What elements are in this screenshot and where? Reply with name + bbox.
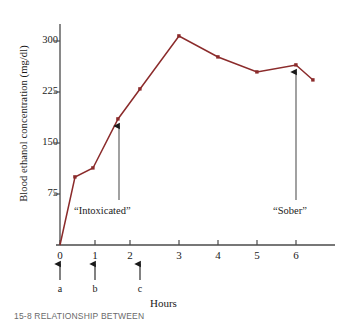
data-point-markers [73, 34, 314, 178]
data-point [116, 117, 119, 120]
data-point [294, 63, 297, 66]
data-point [73, 175, 76, 178]
axis-lines [56, 24, 335, 245]
data-point [138, 87, 141, 90]
x-axis-ticks [60, 240, 296, 245]
data-line [60, 36, 313, 245]
data-point [255, 70, 258, 73]
figure-container: Blood ethanol concentration (mg/dl) 300 … [0, 0, 349, 321]
data-point [311, 78, 314, 81]
plot-svg [0, 0, 349, 321]
data-point [177, 34, 180, 37]
axis-marker-arrows [60, 264, 140, 280]
data-point [91, 166, 94, 169]
y-axis-ticks [54, 41, 60, 194]
annotation-arrows [119, 72, 296, 200]
data-point [216, 55, 219, 58]
